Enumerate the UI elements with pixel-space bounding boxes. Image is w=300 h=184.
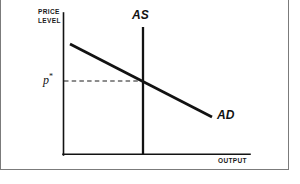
figure-root: PRICELEVEL OUTPUT AS AD p* — [0, 0, 300, 184]
x-axis-title: OUTPUT — [218, 157, 247, 166]
plot-canvas — [0, 0, 300, 184]
ad-curve-label: AD — [217, 108, 235, 122]
equilibrium-price-label: p* — [43, 73, 53, 88]
equilibrium-price-superscript: * — [49, 72, 53, 81]
y-axis-title-line2: LEVEL — [38, 17, 61, 24]
as-curve-label: AS — [132, 8, 149, 22]
y-axis-title-line1: PRICE — [38, 8, 60, 15]
y-axis-title: PRICELEVEL — [38, 8, 61, 25]
